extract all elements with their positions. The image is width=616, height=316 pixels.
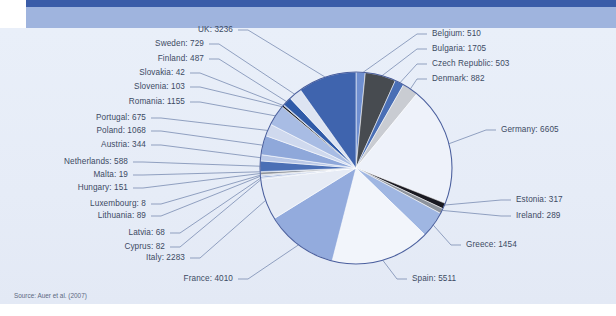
pie-label-belgium: Belgium: 510 xyxy=(432,29,481,39)
leader-line xyxy=(151,131,265,145)
pie-label-luxembourg: Luxembourg: 8 xyxy=(0,199,146,209)
pie-label-cyprus: Cyprus: 82 xyxy=(0,242,165,252)
source-note: Source: Auer et al. (2007) xyxy=(14,292,87,299)
pie-label-netherlands: Netherlands: 588 xyxy=(0,157,128,167)
leader-line xyxy=(381,258,407,279)
leader-line xyxy=(447,130,496,144)
pie-label-sweden: Sweden: 729 xyxy=(0,39,204,49)
pie-label-italy: Italy: 2283 xyxy=(0,253,185,263)
leader-line xyxy=(238,30,327,78)
leader-line xyxy=(399,64,427,84)
pie-label-spain: Spain: 5511 xyxy=(412,274,456,284)
leader-line xyxy=(380,49,427,77)
pie-label-czech-republic: Czech Republic: 503 xyxy=(432,59,509,69)
pie-label-poland: Poland: 1068 xyxy=(0,126,146,136)
leader-line xyxy=(440,210,511,216)
leader-line xyxy=(409,79,427,91)
leader-line xyxy=(151,176,262,216)
pie-chart-figure: Belgium: 510Bulgaria: 1705Czech Republic… xyxy=(0,0,616,316)
pie-label-finland: Finland: 487 xyxy=(0,54,204,64)
pie-label-latvia: Latvia: 68 xyxy=(0,228,165,238)
pie-label-malta: Malta: 19 xyxy=(0,170,128,180)
leader-line xyxy=(190,102,278,116)
leader-line xyxy=(238,244,300,279)
pie-label-estonia: Estonia: 317 xyxy=(516,195,563,205)
leader-line xyxy=(151,118,270,131)
pie-label-lithuania: Lithuania: 89 xyxy=(0,211,146,221)
pie-label-france: France: 4010 xyxy=(0,274,233,284)
leader-line xyxy=(442,200,511,205)
pie-label-slovakia: Slovakia: 42 xyxy=(0,68,185,78)
leader-line xyxy=(190,199,267,258)
pie-label-austria: Austria: 344 xyxy=(0,140,146,150)
pie-label-hungary: Hungary: 151 xyxy=(0,183,128,193)
pie-label-slovenia: Slovenia: 103 xyxy=(0,82,185,92)
pie-slices-group xyxy=(260,72,452,264)
pie-label-portugal: Portugal: 675 xyxy=(0,113,146,123)
pie-label-uk: UK: 3236 xyxy=(0,25,233,35)
pie-label-germany: Germany: 6605 xyxy=(501,125,559,135)
pie-label-denmark: Denmark: 882 xyxy=(432,74,485,84)
pie-label-bulgaria: Bulgaria: 1705 xyxy=(432,44,486,54)
leader-line xyxy=(170,178,263,247)
pie-label-ireland: Ireland: 289 xyxy=(516,211,560,221)
leader-line xyxy=(151,145,263,158)
leader-line xyxy=(361,34,427,74)
leader-line xyxy=(133,172,262,175)
pie-label-romania: Romania: 1155 xyxy=(0,97,185,107)
leader-line xyxy=(133,162,262,166)
pie-label-greece: Greece: 1454 xyxy=(466,240,517,250)
leader-line xyxy=(151,175,262,204)
leader-line xyxy=(432,224,461,245)
leader-line xyxy=(170,177,262,233)
leader-line xyxy=(190,87,284,107)
leader-line xyxy=(190,73,285,106)
